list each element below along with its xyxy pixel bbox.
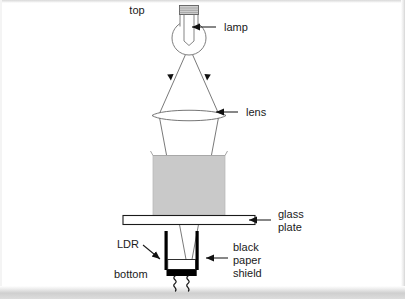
glass-plate-component	[123, 216, 255, 225]
lens-component	[152, 110, 226, 121]
ray-arrowhead-upper-left	[167, 74, 173, 81]
sample-block-body	[153, 156, 225, 216]
label-shield-line3: shield	[233, 267, 262, 279]
ldr-leader-line	[143, 245, 160, 259]
sample-block-rim-left	[151, 151, 154, 156]
light-ray-left-upper	[160, 50, 188, 114]
label-bottom: bottom	[114, 268, 148, 280]
ldr-wire-right	[187, 276, 189, 291]
label-shield-line2: paper	[233, 254, 261, 266]
label-shield-line1: black	[233, 241, 259, 253]
ldr-base	[167, 270, 197, 277]
ldr-element	[168, 260, 196, 270]
lens-body	[152, 110, 226, 121]
sample-block-component	[151, 151, 228, 216]
light-ray-right-upper	[191, 50, 219, 114]
label-glass-plate-line1: glass	[278, 208, 304, 220]
ray-arrowhead-upper-right	[204, 74, 210, 81]
lamp-neck	[180, 14, 198, 27]
apparatus-diagram: top lamp lens glass plate LDR black pape…	[0, 0, 405, 299]
label-lens: lens	[246, 106, 267, 118]
label-ldr: LDR	[117, 238, 139, 250]
shield-wall-left	[165, 231, 168, 270]
glass-plate-body	[123, 216, 255, 225]
figure-page: top lamp lens glass plate LDR black pape…	[0, 0, 405, 299]
label-lamp: lamp	[224, 21, 248, 33]
label-glass-plate-line2: plate	[278, 221, 302, 233]
label-top: top	[129, 4, 144, 16]
sample-block-rim-right	[225, 151, 228, 156]
ldr-wire-left	[174, 276, 176, 291]
shield-wall-right	[196, 231, 199, 270]
ldr-shield-assembly	[165, 231, 199, 291]
lamp-component	[172, 6, 206, 56]
